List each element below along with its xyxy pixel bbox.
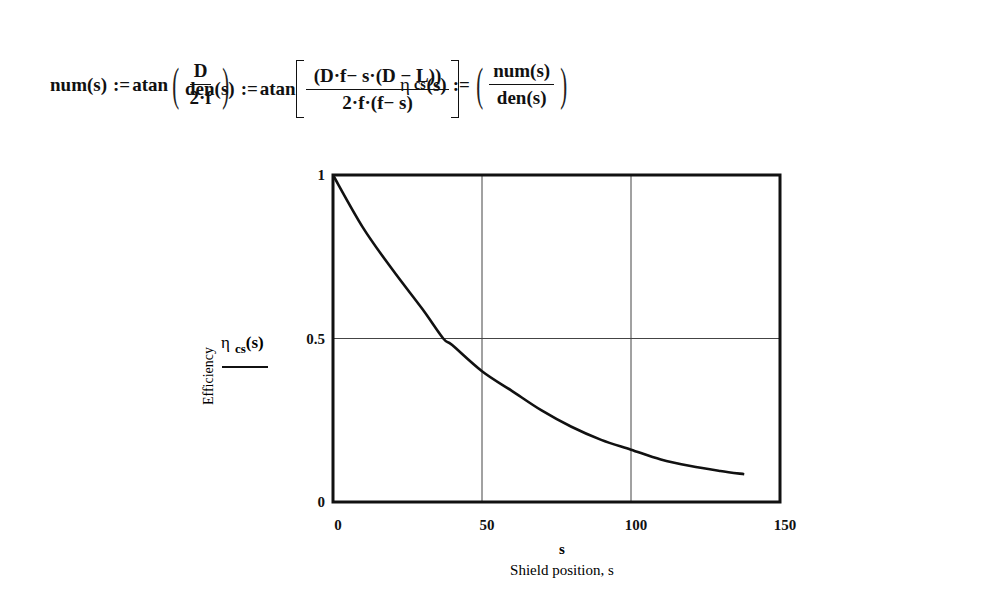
x-tick-label: 50 (480, 517, 495, 533)
y-tick-labels: 00.51 (306, 167, 325, 510)
grid-lines (333, 175, 780, 502)
x-tick-label: 100 (625, 517, 648, 533)
x-tick-label: 0 (334, 517, 342, 533)
x-tick-labels: 050100150 (334, 517, 796, 533)
legend-eta-arg: (s) (246, 333, 264, 352)
legend-eta-symbol: η (221, 333, 230, 352)
y-axis-label: Efficiency (201, 347, 216, 405)
x-axis-label: s (559, 541, 565, 557)
x-axis-caption: Shield position, s (510, 562, 614, 578)
y-tick-label: 1 (318, 167, 326, 183)
efficiency-chart: 00.51 050100150 Efficiency ηcs(s) s Shie… (0, 0, 1003, 605)
y-tick-label: 0 (318, 494, 326, 510)
efficiency-curve (333, 175, 744, 474)
legend-eta-sub: cs (235, 341, 246, 356)
x-tick-label: 150 (774, 517, 797, 533)
legend-eta: ηcs(s) (221, 333, 264, 356)
y-tick-label: 0.5 (306, 331, 325, 347)
